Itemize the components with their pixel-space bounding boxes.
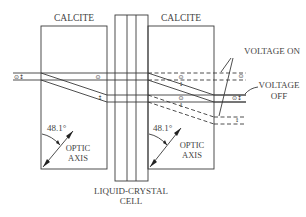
vertical-arrow-icon: ↕ bbox=[235, 117, 239, 123]
output-polarization-icon: ⊙↕ bbox=[232, 94, 242, 101]
voltage-off-label-2: OFF bbox=[271, 91, 288, 101]
circle-dot-icon: ⊙ bbox=[178, 94, 183, 101]
input-polarization-icon: ⊙↕ bbox=[14, 73, 24, 80]
optic-axis-right bbox=[149, 128, 181, 167]
voltage-off-label-1: VOLTAGE bbox=[259, 80, 300, 90]
cell-label-1: LIQUID-CRYSTAL bbox=[94, 186, 168, 196]
liquid-crystal-cell bbox=[115, 15, 148, 181]
circle-dot-icon: ⊙ bbox=[178, 73, 183, 80]
optical-switch-diagram: CALCITE CALCITE ⊙↕ ⊙ ↕ bbox=[0, 0, 306, 217]
optic-axis-right-label-2: AXIS bbox=[182, 150, 202, 160]
circle-dot-icon: ⊙ bbox=[95, 73, 100, 80]
angle-left-label: 48.1° bbox=[47, 123, 67, 133]
circle-dot-icon: ⊙ bbox=[238, 72, 243, 79]
cell-label-2: CELL bbox=[120, 196, 143, 206]
angle-right-label: 48.1° bbox=[153, 123, 173, 133]
voltage-on-label: VOLTAGE ON bbox=[244, 46, 301, 56]
vertical-arrow-icon: ↕ bbox=[97, 94, 102, 101]
vertical-arrow-icon: ↕ bbox=[179, 81, 183, 87]
calcite-right-label: CALCITE bbox=[161, 13, 201, 23]
voltage-off-pointer bbox=[245, 87, 258, 94]
vertical-arrow-icon: ↕ bbox=[179, 102, 183, 108]
calcite-left-label: CALCITE bbox=[54, 13, 94, 23]
voltage-on-pointers bbox=[219, 58, 233, 116]
optic-axis-left-label-1: OPTIC bbox=[66, 143, 91, 153]
optic-axis-left-label-2: AXIS bbox=[68, 153, 88, 163]
optic-axis-right-label-1: OPTIC bbox=[180, 140, 205, 150]
